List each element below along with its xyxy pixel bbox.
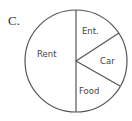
slice-label-ent: Ent. [82, 26, 99, 36]
slice-label-rent: Rent [37, 49, 57, 59]
pie-chart: Rent Ent. Car Food [0, 0, 132, 121]
slice-label-car: Car [100, 56, 115, 66]
slice-label-food: Food [79, 86, 99, 96]
